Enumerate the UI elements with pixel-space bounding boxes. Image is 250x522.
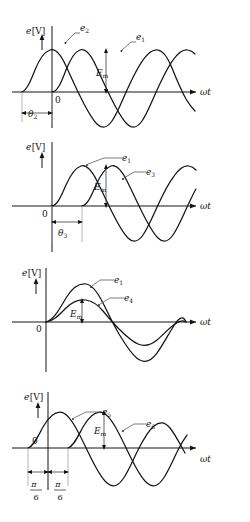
origin-label: 0	[42, 209, 48, 219]
x-axis-label: ωt	[200, 87, 211, 97]
leader-dot-e1	[121, 50, 123, 52]
leader-dot-e3	[122, 178, 124, 180]
leader-dot-e1	[90, 286, 92, 288]
curve-e4	[46, 300, 186, 346]
leader-e1	[92, 280, 114, 286]
y-axis-direction-arrow	[36, 402, 41, 408]
panel-1-plot: e[V] 0 ωt Em e2 e1 θ2	[0, 0, 250, 130]
curve-label-e2: e2	[80, 23, 89, 34]
panel-2: e[V] 0 ωt Em e1 e3 θ3	[0, 130, 250, 260]
x-axis-label: ωt	[200, 201, 211, 211]
panel-4: π 6 π 6 e[V] 0 ωt Em e5 e6	[0, 386, 250, 522]
y-axis-direction-arrow	[40, 152, 45, 158]
curve-e1	[52, 166, 196, 241]
tick-label-left-numerator: π	[30, 480, 37, 489]
leader-e2	[66, 33, 80, 42]
amplitude-label: Em	[95, 68, 109, 79]
x-axis-arrow	[190, 203, 196, 208]
x-axis-label: ωt	[200, 454, 211, 464]
curve-e1	[46, 284, 186, 362]
leader-e1	[122, 42, 136, 50]
curve-e2	[22, 50, 195, 127]
y-axis-direction-arrow	[34, 278, 39, 284]
panel-4-plot: π 6 π 6 e[V] 0 ωt Em e5 e6	[0, 386, 250, 522]
leader-dot-e4	[98, 304, 100, 306]
waveform-figure: e[V] 0 ωt Em e2 e1 θ2	[0, 0, 250, 522]
leader-dot-e5	[72, 418, 74, 420]
leader-dot-e1	[86, 164, 88, 166]
origin-label: 0	[55, 95, 61, 105]
angle-label-theta2: θ2	[28, 109, 37, 120]
leader-dot-e6	[122, 430, 124, 432]
tick-label-right-denominator: 6	[57, 493, 62, 502]
x-axis-arrow	[190, 89, 196, 94]
curve-label-e5: e5	[102, 407, 111, 418]
y-axis-label: e[V]	[24, 392, 43, 402]
amplitude-arrow-top	[104, 164, 108, 169]
curve-label-e4: e4	[124, 293, 133, 304]
curve-label-e6: e6	[146, 419, 155, 430]
curve-e5	[28, 412, 185, 486]
leader-e1	[88, 158, 122, 164]
origin-label: 0	[36, 324, 42, 334]
panel-3-plot: e[V] 0 ωt Em e1 e4	[0, 260, 250, 386]
curve-label-e1: e1	[122, 153, 131, 164]
amplitude-arrow-top	[104, 48, 108, 53]
curve-e1	[52, 50, 195, 127]
curve-label-e1: e1	[136, 32, 145, 43]
amplitude-label: Em	[93, 426, 107, 437]
leader-e3	[124, 172, 146, 178]
panel-2-plot: e[V] 0 ωt Em e1 e3 θ3	[0, 130, 250, 260]
amplitude-label: Em	[93, 182, 107, 193]
panel-1: e[V] 0 ωt Em e2 e1 θ2	[0, 0, 250, 130]
x-axis-arrow	[190, 319, 196, 324]
panel-3: e[V] 0 ωt Em e1 e4	[0, 260, 250, 386]
angle-label-theta3: θ3	[58, 228, 67, 239]
leader-e6	[124, 424, 146, 430]
curve-label-e3: e3	[146, 167, 155, 178]
curve-e3	[82, 166, 196, 241]
x-axis-label: ωt	[200, 317, 211, 327]
amplitude-label: Em	[69, 309, 83, 320]
tick-label-left-denominator: 6	[33, 493, 38, 502]
leader-dot-e2	[65, 42, 67, 44]
curve-label-e1: e1	[114, 275, 123, 286]
leader-e5	[74, 412, 102, 418]
y-axis-label: e[V]	[26, 142, 45, 152]
origin-label: 0	[32, 436, 38, 446]
y-axis-label: e[V]	[22, 268, 41, 278]
tick-label-right-numerator: π	[54, 480, 61, 489]
y-axis-label: e[V]	[26, 26, 45, 36]
x-axis-arrow	[190, 445, 196, 450]
